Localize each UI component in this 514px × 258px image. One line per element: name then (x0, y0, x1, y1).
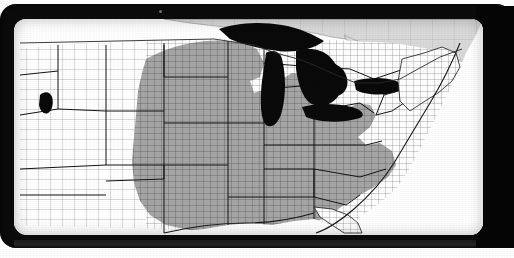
scan-speck-artifact (159, 10, 162, 13)
map-plate (14, 19, 483, 235)
county-choropleth-map (14, 19, 483, 235)
frame-bottom-smudge (14, 240, 484, 248)
scanned-page (0, 0, 514, 258)
